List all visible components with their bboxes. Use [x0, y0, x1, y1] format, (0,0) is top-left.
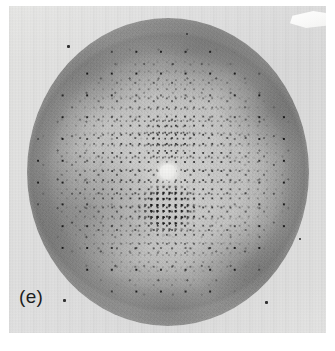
spot-lattice-coarse	[38, 42, 298, 302]
spot-lattice-outer	[30, 24, 306, 320]
panel-label: (e)	[19, 287, 43, 306]
photographic-print	[9, 6, 326, 333]
reflection-spot-lattice	[27, 18, 309, 326]
scan-margin-right	[326, 0, 335, 351]
spot-lattice-primary	[38, 42, 298, 302]
spot-cluster-lower	[137, 179, 199, 237]
scan-margin-left	[0, 0, 9, 351]
diffraction-film-disc	[27, 18, 309, 326]
dust-speck-lower-right	[265, 301, 268, 304]
film-grain	[27, 18, 309, 326]
dust-speck-upper-left	[67, 45, 70, 48]
film-fog-mottle	[27, 18, 309, 326]
spot-lattice-outer-diagonal	[27, 18, 309, 326]
spot-cluster-upper	[139, 113, 197, 163]
beam-stop	[160, 164, 177, 180]
dust-speck-lower-left	[63, 299, 66, 302]
tape-highlight-mark	[290, 11, 326, 28]
spot-lattice-layer-lines	[38, 42, 298, 302]
concentric-intensity-rings	[27, 18, 309, 326]
beam-stop-halo	[153, 158, 183, 187]
scan-margin-bottom	[0, 333, 335, 351]
dust-speck-mid-right	[299, 238, 301, 240]
film-edge-ring	[27, 18, 309, 326]
diffraction-figure: (e)	[0, 0, 335, 351]
